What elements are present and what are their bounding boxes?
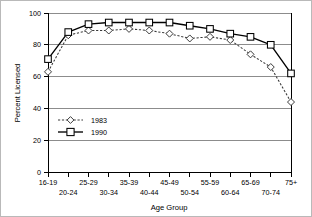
x-tick-labels: 16-19 25-29 35-39 45-49 55-59 65-69 75+ …	[39, 178, 297, 197]
x-tick-label-45-49: 45-49	[160, 178, 178, 187]
y-axis-title: Percent Licensed	[13, 64, 22, 123]
data-point-1983-50-54	[186, 35, 193, 42]
series-path-1983	[48, 29, 291, 102]
legend-square-icon	[67, 128, 74, 135]
x-tick-label-70-74: 70-74	[262, 188, 280, 197]
chart-legend: 1983 1990	[58, 116, 107, 137]
data-point-1983-16-19	[45, 68, 52, 75]
line-chart: 100 80 60 40 20 0 Percent Licensed	[1, 1, 312, 217]
data-point-1990-45-49	[166, 19, 173, 26]
data-point-1990-20-24	[65, 29, 72, 36]
chart-figure: 100 80 60 40 20 0 Percent Licensed	[0, 0, 312, 217]
legend-label-1990: 1990	[91, 128, 107, 137]
x-tick-label-25-29: 25-29	[79, 178, 97, 187]
data-point-1990-35-39	[126, 19, 133, 26]
y-tick-label-40: 40	[33, 104, 41, 113]
x-tick-label-20-24: 20-24	[59, 188, 77, 197]
x-tick-label-60-64: 60-64	[221, 188, 239, 197]
y-tick-label-80: 80	[33, 40, 41, 49]
data-point-1983-35-39	[126, 25, 133, 32]
x-tick-label-55-59: 55-59	[201, 178, 219, 187]
series-line-1983	[48, 29, 291, 102]
data-point-1990-30-34	[105, 19, 112, 26]
data-point-1983-60-64	[227, 37, 234, 44]
data-point-1983-30-34	[105, 27, 112, 34]
data-point-1983-40-44	[146, 27, 153, 34]
data-point-1990-55-59	[207, 26, 214, 33]
series-markers-1990	[45, 19, 295, 76]
x-axis-title: Age Group	[151, 203, 188, 212]
x-tick-label-75plus: 75+	[285, 178, 297, 187]
data-point-1983-75+	[288, 99, 295, 106]
data-point-1990-60-64	[227, 30, 234, 37]
x-tick-label-16-19: 16-19	[39, 178, 57, 187]
data-point-1990-75+	[288, 70, 295, 77]
x-tick-marks	[48, 172, 291, 177]
x-tick-label-65-69: 65-69	[241, 178, 259, 187]
legend-label-1983: 1983	[91, 116, 107, 125]
data-point-1990-50-54	[186, 22, 193, 29]
y-tick-label-0: 0	[37, 168, 41, 177]
y-tick-label-60: 60	[33, 72, 41, 81]
data-point-1983-70-74	[267, 64, 274, 71]
x-tick-label-35-39: 35-39	[120, 178, 138, 187]
x-tick-label-40-44: 40-44	[140, 188, 158, 197]
y-tick-label-100: 100	[29, 9, 41, 18]
data-point-1990-16-19	[45, 56, 52, 63]
data-point-1990-40-44	[146, 19, 153, 26]
data-point-1983-65-69	[247, 51, 254, 58]
x-tick-label-50-54: 50-54	[181, 188, 199, 197]
series-markers-1983	[45, 25, 295, 105]
legend-diamond-icon	[67, 117, 74, 124]
data-point-1990-70-74	[267, 42, 274, 49]
data-point-1983-45-49	[166, 30, 173, 37]
data-point-1983-55-59	[207, 33, 214, 40]
y-tick-labels: 100 80 60 40 20 0	[29, 9, 41, 177]
data-point-1983-25-29	[85, 27, 92, 34]
x-tick-label-30-34: 30-34	[100, 188, 118, 197]
data-point-1990-25-29	[85, 21, 92, 28]
y-tick-marks	[44, 13, 49, 172]
data-point-1990-65-69	[247, 34, 254, 41]
y-tick-label-20: 20	[33, 136, 41, 145]
